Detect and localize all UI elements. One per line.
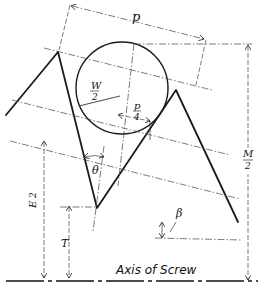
crest-line — [44, 48, 212, 90]
m-label: M — [242, 148, 254, 159]
theta-arc — [85, 156, 104, 158]
beta-label: β — [175, 207, 182, 220]
pitch-line — [12, 100, 230, 155]
p4-den-label: 4 — [133, 112, 140, 122]
e-label: E — [27, 200, 38, 209]
m-den-label: 2 — [244, 161, 251, 171]
p4-label: p — [134, 100, 141, 111]
w-den-label: 2 — [91, 92, 98, 102]
beta-horizontal — [155, 238, 242, 240]
wire-circle — [76, 42, 168, 134]
pitch-label: p — [132, 9, 141, 24]
w-label: W — [91, 80, 102, 91]
screw-thread-diagram: p W 2 p 4 θ E 2 T M 2 β Axis of Screw — [0, 0, 261, 286]
e-den-label: 2 — [28, 192, 38, 199]
radius-line — [79, 96, 120, 106]
root-line — [10, 141, 240, 199]
tooth-axis — [93, 146, 104, 232]
pitch-dimension: p — [59, 5, 206, 85]
theta-label: θ — [92, 164, 99, 177]
axis-label: Axis of Screw — [115, 263, 197, 277]
thread-profile — [6, 52, 238, 222]
